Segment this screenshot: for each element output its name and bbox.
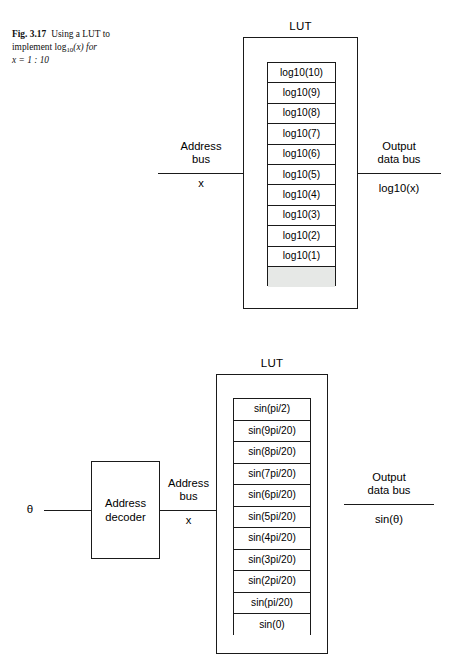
sine-lut-address-bus-label-line2: bus bbox=[179, 490, 197, 502]
table-row[interactable]: sin(0) bbox=[234, 614, 310, 636]
address-decoder-label-line2: decoder bbox=[105, 511, 145, 523]
sine-lut-output-bus-label-line1: Output bbox=[372, 471, 406, 483]
table-row[interactable]: log10(1) bbox=[268, 247, 335, 267]
table-row[interactable]: sin(9pi/20) bbox=[234, 421, 310, 443]
figure-page: Fig. 3.17Using a LUT to implement log10(… bbox=[0, 0, 458, 662]
table-row[interactable]: log10(7) bbox=[268, 124, 335, 144]
table-row[interactable]: log10(8) bbox=[268, 104, 335, 124]
caption-log-base: 10 bbox=[66, 46, 73, 53]
table-row[interactable]: sin(pi/20) bbox=[234, 593, 310, 615]
log-lut-address-bus-value: x bbox=[158, 177, 244, 190]
log-lut-address-bus-line bbox=[158, 173, 244, 174]
table-row[interactable] bbox=[268, 267, 335, 287]
caption-line-2-pre: implement log bbox=[12, 42, 66, 52]
log-lut-output-bus-label: Output data bus bbox=[357, 140, 441, 167]
sine-lut-output-bus-line bbox=[344, 504, 434, 505]
sine-lut-address-bus-value: x bbox=[160, 514, 217, 527]
table-row[interactable]: log10(9) bbox=[268, 83, 335, 103]
log-lut-output-bus-label-line1: Output bbox=[382, 140, 416, 152]
sine-lut-output-bus-label-line2: data bus bbox=[368, 484, 411, 496]
table-row[interactable]: log10(10) bbox=[268, 63, 335, 83]
sine-lut-address-bus-line bbox=[160, 510, 217, 511]
table-row[interactable]: log10(4) bbox=[268, 185, 335, 205]
log-lut-address-bus-label-line1: Address bbox=[180, 140, 221, 152]
table-row[interactable]: sin(pi/2) bbox=[234, 399, 310, 421]
figure-number: Fig. 3.17 bbox=[12, 29, 46, 39]
table-row[interactable]: sin(4pi/20) bbox=[234, 528, 310, 550]
log-lut-output-bus-value: log10(x) bbox=[357, 182, 441, 195]
log-lut-cell-stack: log10(10) log10(9) log10(8) log10(7) log… bbox=[267, 62, 336, 286]
sine-lut-output-bus-value: sin(θ) bbox=[344, 513, 434, 526]
caption-line-2-post: (x) for bbox=[73, 42, 97, 52]
log-lut-title: LUT bbox=[243, 20, 358, 32]
log-lut-output-bus-line bbox=[357, 173, 441, 174]
sine-lut-title: LUT bbox=[216, 357, 328, 369]
address-decoder-box[interactable]: Address decoder bbox=[91, 461, 160, 559]
address-decoder-label-line1: Address bbox=[105, 497, 146, 509]
table-row[interactable]: log10(6) bbox=[268, 145, 335, 165]
sine-lut-cell-stack: sin(pi/2) sin(9pi/20) sin(8pi/20) sin(7p… bbox=[233, 398, 311, 635]
sine-lut-output-bus-label: Output data bus bbox=[344, 471, 434, 498]
table-row[interactable]: sin(7pi/20) bbox=[234, 464, 310, 486]
sine-lut-theta-wire bbox=[44, 510, 91, 511]
table-row[interactable]: sin(3pi/20) bbox=[234, 550, 310, 572]
table-row[interactable]: log10(2) bbox=[268, 226, 335, 246]
log-lut-output-bus-label-line2: data bus bbox=[378, 153, 421, 165]
sine-lut-address-bus-label-line1: Address bbox=[168, 477, 209, 489]
caption-line-3: x = 1 : 10 bbox=[12, 55, 49, 65]
log-lut-address-bus-label: Address bus bbox=[158, 140, 244, 167]
figure-caption: Fig. 3.17Using a LUT to implement log10(… bbox=[12, 28, 162, 68]
table-row[interactable]: sin(5pi/20) bbox=[234, 507, 310, 529]
table-row[interactable]: sin(8pi/20) bbox=[234, 442, 310, 464]
sine-lut-theta-input-label: θ bbox=[20, 503, 40, 515]
table-row[interactable]: sin(6pi/20) bbox=[234, 485, 310, 507]
log-lut-address-bus-label-line2: bus bbox=[192, 153, 210, 165]
sine-lut-address-bus-label: Address bus bbox=[160, 477, 217, 504]
table-row[interactable]: sin(2pi/20) bbox=[234, 571, 310, 593]
caption-line-1: Using a LUT to bbox=[51, 29, 110, 39]
table-row[interactable]: log10(3) bbox=[268, 206, 335, 226]
table-row[interactable]: log10(5) bbox=[268, 165, 335, 185]
